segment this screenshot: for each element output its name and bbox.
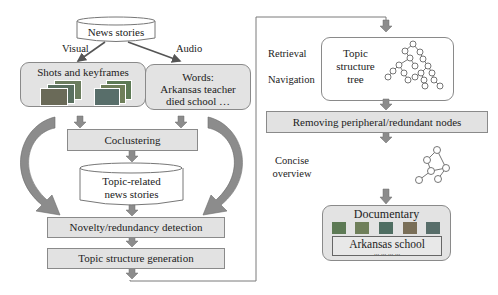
main-thread-tree-graph bbox=[416, 147, 450, 184]
audio-label: Audio bbox=[176, 43, 202, 55]
documentary-thumbnail bbox=[379, 222, 393, 234]
down-arrow-icon bbox=[74, 116, 86, 128]
documentary-box: Documentary Arkansas school ... ... ... … bbox=[322, 205, 451, 261]
topic-tree-label-line2: structure bbox=[328, 60, 383, 73]
coclustering-label: Coclustering bbox=[68, 134, 197, 147]
novelty-detection-label: Novelty/redundancy detection bbox=[48, 221, 224, 234]
topic-structure-generation-step: Topic structure generation bbox=[47, 248, 225, 269]
down-arrow-icon bbox=[175, 116, 187, 128]
down-arrow-icon bbox=[380, 132, 392, 143]
down-arrow-icon bbox=[380, 20, 392, 32]
navigation-label: Navigation bbox=[268, 74, 315, 86]
novelty-detection-step: Novelty/redundancy detection bbox=[47, 217, 225, 238]
news-stories-label: News stories bbox=[77, 26, 155, 39]
down-arrow-icon bbox=[126, 150, 138, 162]
shots-keyframes-label: Shots and keyframes bbox=[21, 66, 145, 79]
documentary-thumbnail bbox=[332, 222, 346, 234]
documentary-thumbnail bbox=[355, 222, 369, 234]
documentary-caption-box: Arkansas school ... ... ... ... bbox=[332, 236, 442, 256]
removing-nodes-step: Removing peripheral/redundant nodes bbox=[266, 111, 488, 133]
curved-arrow-left bbox=[21, 117, 60, 215]
curved-arrow-right bbox=[203, 117, 242, 215]
keyframe-thumbnail bbox=[40, 88, 68, 106]
concise-label: Concise bbox=[272, 155, 312, 167]
down-arrow-icon bbox=[126, 268, 138, 279]
words-keywords-line2: died school … bbox=[146, 95, 250, 108]
documentary-thumbnail bbox=[426, 222, 440, 234]
topic-structure-generation-label: Topic structure generation bbox=[48, 252, 224, 265]
documentary-ellipsis: ... ... ... ... bbox=[333, 247, 441, 260]
audio-arrow bbox=[128, 42, 180, 61]
shots-keyframes-box: Shots and keyframes bbox=[20, 62, 146, 107]
words-box: Words: Arkansas teacher died school … bbox=[145, 64, 251, 110]
keyframe-thumbnail bbox=[94, 88, 120, 106]
topic-tree-label-line3: tree bbox=[328, 73, 383, 86]
overview-label: overview bbox=[268, 168, 316, 180]
documentary-thumbnail bbox=[403, 222, 417, 234]
down-arrow-icon bbox=[126, 205, 138, 216]
removing-nodes-label: Removing peripheral/redundant nodes bbox=[267, 116, 487, 129]
topic-tree-label-line1: Topic bbox=[328, 47, 383, 60]
down-arrow-icon bbox=[380, 189, 392, 204]
documentary-title: Documentary bbox=[323, 208, 450, 221]
coclustering-step: Coclustering bbox=[67, 129, 198, 151]
topic-related-label-line1: Topic-related bbox=[80, 175, 183, 188]
topic-related-label-line2: news stories bbox=[80, 188, 183, 201]
retrieval-label: Retrieval bbox=[268, 48, 306, 60]
visual-label: Visual bbox=[62, 43, 89, 55]
